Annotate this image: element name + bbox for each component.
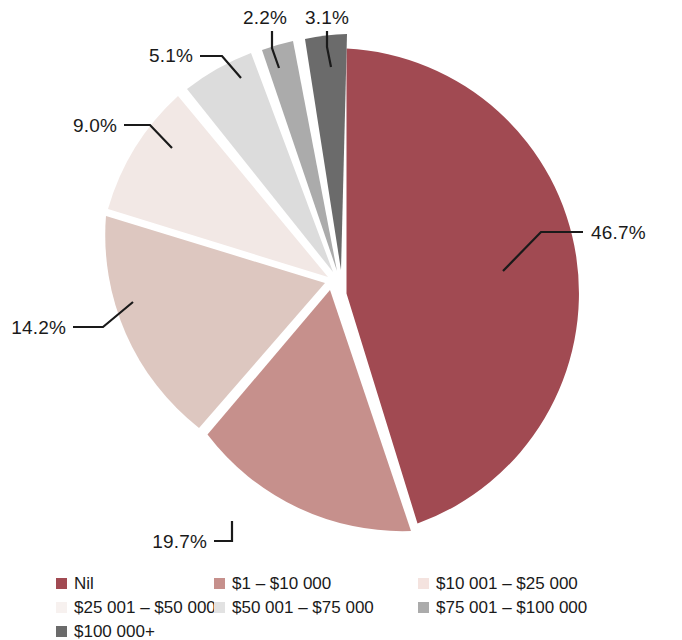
pie-value-label: 5.1%: [149, 45, 193, 66]
legend-item[interactable]: $1 – $10 000: [205, 574, 410, 593]
legend-label: $1 – $10 000: [232, 574, 331, 593]
pie-chart: 46.7%19.7%14.2%9.0%5.1%2.2%3.1% Nil$1 – …: [0, 0, 682, 640]
legend-item[interactable]: Nil: [0, 574, 205, 593]
legend-swatch-icon: [56, 578, 67, 589]
pie-value-label: 14.2%: [11, 317, 66, 338]
legend-swatch-icon: [214, 602, 225, 613]
legend-item[interactable]: $100 000+: [0, 622, 205, 640]
legend-label: $10 001 – $25 000: [436, 574, 578, 593]
legend-swatch-icon: [214, 578, 225, 589]
pie-value-label: 2.2%: [243, 7, 287, 28]
legend-item[interactable]: $10 001 – $25 000: [410, 574, 682, 593]
pie-chart-svg: 46.7%19.7%14.2%9.0%5.1%2.2%3.1%: [0, 0, 682, 565]
legend-row: $100 000+: [0, 619, 682, 640]
legend-label: $50 001 – $75 000: [232, 598, 374, 617]
pie-value-label: 9.0%: [73, 115, 117, 136]
pie-value-label: 3.1%: [305, 7, 349, 28]
legend-swatch-icon: [56, 626, 67, 637]
legend-item[interactable]: $25 001 – $50 000: [0, 598, 205, 617]
legend-row: Nil$1 – $10 000$10 001 – $25 000: [0, 571, 682, 595]
legend-label: $25 001 – $50 000: [74, 598, 216, 617]
legend-swatch-icon: [56, 602, 67, 613]
legend-item[interactable]: $75 001 – $100 000: [410, 598, 682, 617]
legend-swatch-icon: [418, 602, 429, 613]
pie-value-label: 19.7%: [152, 531, 207, 552]
legend-swatch-icon: [418, 578, 429, 589]
pie-value-label: 46.7%: [591, 222, 646, 243]
chart-legend: Nil$1 – $10 000$10 001 – $25 000$25 001 …: [0, 565, 682, 640]
legend-label: Nil: [74, 574, 94, 593]
pie-leader-line: [214, 521, 232, 541]
legend-label: $75 001 – $100 000: [436, 598, 587, 617]
legend-label: $100 000+: [74, 622, 155, 640]
pie-slice-group: [105, 34, 579, 531]
legend-item[interactable]: $50 001 – $75 000: [205, 598, 410, 617]
legend-row: $25 001 – $50 000$50 001 – $75 000$75 00…: [0, 595, 682, 619]
